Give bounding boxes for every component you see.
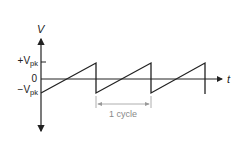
positive-peak-label: +Vpk	[18, 55, 39, 68]
y-axis-label: V	[37, 23, 46, 35]
cycle-label: 1 cycle	[109, 109, 137, 119]
y-axis	[41, 39, 46, 131]
negative-peak-label: −Vpk	[18, 84, 39, 97]
cycle-dimension	[96, 96, 151, 108]
sawtooth-diagram: V t +Vpk 0 −Vpk 1 cycle	[0, 0, 249, 155]
x-axis-label: t	[227, 73, 231, 85]
zero-label: 0	[31, 73, 37, 84]
